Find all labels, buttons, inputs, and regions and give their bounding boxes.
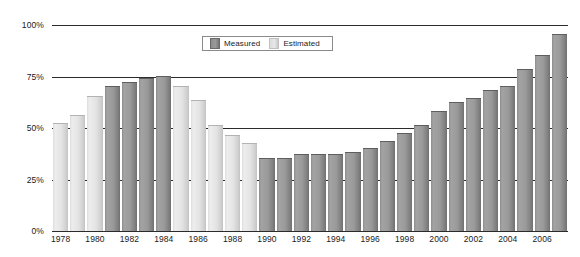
- gridline-0: [52, 231, 568, 232]
- x-axis-tick-label: 1992: [292, 234, 311, 244]
- bar-slot: [397, 25, 412, 231]
- bar[interactable]: [311, 154, 326, 231]
- bar-slot: [242, 25, 257, 231]
- bar[interactable]: [431, 111, 446, 231]
- x-axis-tick-label: 1998: [395, 234, 414, 244]
- bar[interactable]: [173, 86, 188, 231]
- bar-slot: [191, 25, 206, 231]
- bar-slot: [139, 25, 154, 231]
- bar[interactable]: [156, 76, 171, 232]
- bar[interactable]: [517, 69, 532, 231]
- y-axis-tick-label: 25%: [0, 175, 44, 185]
- bar-series-container: [52, 25, 568, 231]
- x-axis-tick-label: 1984: [154, 234, 173, 244]
- bar[interactable]: [225, 135, 240, 231]
- bar[interactable]: [87, 96, 102, 231]
- bar[interactable]: [70, 115, 85, 231]
- bar-slot: [259, 25, 274, 231]
- bar[interactable]: [139, 78, 154, 231]
- bar-slot: [535, 25, 550, 231]
- bar[interactable]: [294, 154, 309, 231]
- x-axis-tick-label: 2002: [464, 234, 483, 244]
- bar-slot: [87, 25, 102, 231]
- bar-slot: [483, 25, 498, 231]
- x-axis-tick-label: 1982: [120, 234, 139, 244]
- bar[interactable]: [380, 141, 395, 231]
- y-axis-tick-label: 0%: [0, 226, 44, 236]
- x-axis-tick-label: 2000: [429, 234, 448, 244]
- y-axis-tick-label: 75%: [0, 72, 44, 82]
- legend-item-estimated: Estimated: [269, 38, 319, 49]
- bar-slot: [431, 25, 446, 231]
- x-axis-labels: 1978198019821984198619881990199219941996…: [52, 234, 568, 252]
- bar-slot: [105, 25, 120, 231]
- bar[interactable]: [242, 143, 257, 231]
- bar-slot: [225, 25, 240, 231]
- bar[interactable]: [552, 34, 567, 231]
- legend-item-measured: Measured: [210, 38, 260, 49]
- y-axis-tick-label: 100%: [0, 20, 44, 30]
- bar[interactable]: [53, 123, 68, 231]
- legend-label-estimated: Estimated: [283, 39, 319, 48]
- x-axis-tick-label: 1996: [361, 234, 380, 244]
- bar[interactable]: [122, 82, 137, 231]
- bar[interactable]: [449, 102, 464, 231]
- bar[interactable]: [259, 158, 274, 231]
- bar-slot: [294, 25, 309, 231]
- bar-slot: [363, 25, 378, 231]
- bar-slot: [414, 25, 429, 231]
- bar-slot: [449, 25, 464, 231]
- bar-slot: [156, 25, 171, 231]
- bar-slot: [466, 25, 481, 231]
- plot-area: [52, 25, 568, 231]
- bar-slot: [173, 25, 188, 231]
- bar-slot: [311, 25, 326, 231]
- bar[interactable]: [397, 133, 412, 231]
- bar-slot: [517, 25, 532, 231]
- chart-legend: Measured Estimated: [202, 36, 333, 51]
- bar[interactable]: [328, 154, 343, 231]
- bar[interactable]: [277, 158, 292, 231]
- x-axis-tick-label: 1994: [326, 234, 345, 244]
- bar-slot: [345, 25, 360, 231]
- bar-slot: [277, 25, 292, 231]
- bar[interactable]: [500, 86, 515, 231]
- bar-slot: [500, 25, 515, 231]
- y-axis-tick-label: 50%: [0, 123, 44, 133]
- x-axis-tick-label: 1986: [189, 234, 208, 244]
- x-axis-tick-label: 2006: [533, 234, 552, 244]
- bar-slot: [70, 25, 85, 231]
- bar[interactable]: [466, 98, 481, 231]
- bar-slot: [122, 25, 137, 231]
- legend-swatch-estimated-icon: [269, 38, 279, 49]
- bar[interactable]: [483, 90, 498, 231]
- bar-slot: [380, 25, 395, 231]
- bar-slot: [552, 25, 567, 231]
- legend-swatch-measured-icon: [210, 38, 220, 49]
- x-axis-tick-label: 1978: [51, 234, 70, 244]
- bar-slot: [208, 25, 223, 231]
- bar-slot: [328, 25, 343, 231]
- x-axis-tick-label: 1980: [85, 234, 104, 244]
- bar[interactable]: [105, 86, 120, 231]
- bar[interactable]: [191, 100, 206, 231]
- bar[interactable]: [414, 125, 429, 231]
- bar[interactable]: [208, 125, 223, 231]
- bar[interactable]: [345, 152, 360, 231]
- x-axis-tick-label: 1990: [257, 234, 276, 244]
- bar-slot: [53, 25, 68, 231]
- x-axis-tick-label: 2004: [498, 234, 517, 244]
- bar[interactable]: [535, 55, 550, 231]
- bar-chart: 0%25%50%75%100% 197819801982198419861988…: [0, 0, 580, 257]
- bar[interactable]: [363, 148, 378, 231]
- legend-label-measured: Measured: [224, 39, 260, 48]
- x-axis-tick-label: 1988: [223, 234, 242, 244]
